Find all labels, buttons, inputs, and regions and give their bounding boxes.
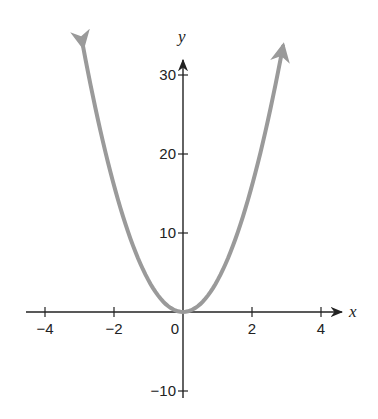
y-tick-label: 20 [159,145,176,162]
x-tick-label: −4 [36,320,53,337]
x-tick-label: −2 [105,320,122,337]
x-tick-label: 4 [317,320,325,337]
y-tick-label: 10 [159,224,176,241]
y-tick-label: −10 [151,382,176,399]
y-tick-label: 30 [159,66,176,83]
x-tick-label: 2 [248,320,256,337]
y-axis-label: y [176,27,186,46]
x-axis-label: x [348,302,357,321]
chart: −4−2024 −10102030 x y [0,0,378,419]
x-tick-label: 0 [171,320,179,337]
